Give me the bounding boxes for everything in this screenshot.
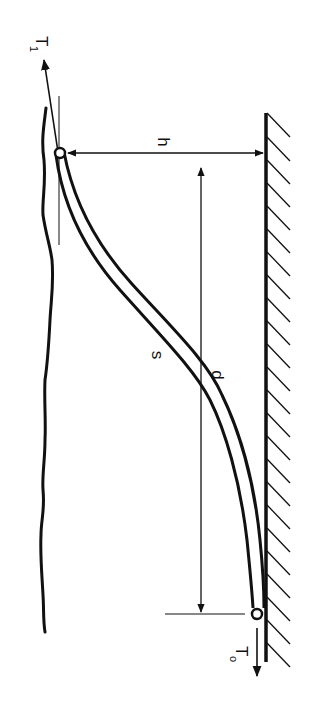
height-label: h [154,137,173,146]
seabed-hatching [267,113,290,667]
surface-float-icon [55,148,65,158]
svg-text:T: T [32,36,51,46]
water-surface-line [41,108,53,632]
svg-text:1: 1 [28,46,40,52]
mooring-line-outer [56,155,253,608]
top-tension-arrow [44,60,58,152]
mooring-line-diagram: T 1 h d s T o [0,0,336,703]
line-length-label: s [148,351,167,360]
distance-label: d [208,370,227,379]
top-tension-label: T 1 [28,36,51,52]
svg-text:o: o [228,656,240,662]
mooring-line-inner [64,152,264,608]
bottom-tension-label: T o [228,646,251,662]
anchor-point-icon [252,609,262,619]
svg-text:T: T [232,646,251,656]
